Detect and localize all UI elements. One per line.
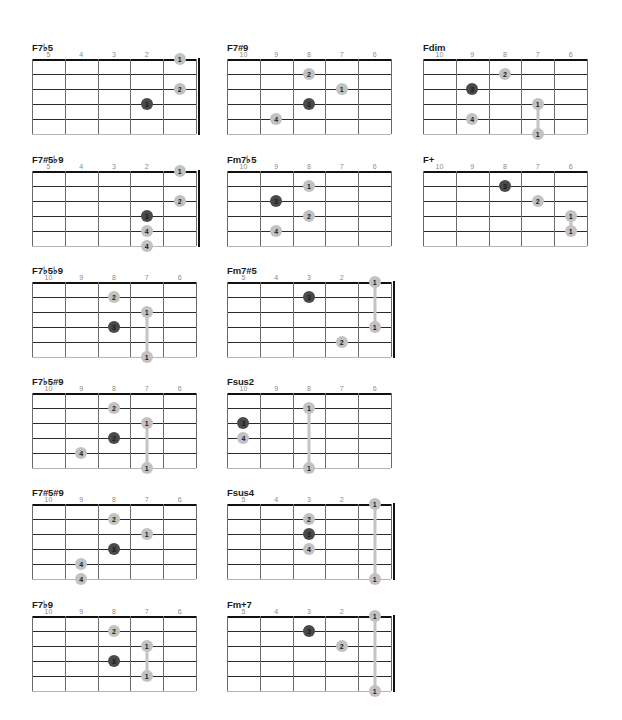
- fret-line: [32, 393, 33, 468]
- fret-number: 7: [340, 385, 344, 392]
- chord-diagram: F7♭5#910987621341: [32, 376, 212, 476]
- finger-dot: 2: [108, 513, 120, 525]
- fretboard-grid: 2131: [32, 616, 196, 691]
- finger-dot: 4: [75, 558, 87, 570]
- finger-dot: 4: [466, 113, 478, 125]
- string-line: [423, 104, 587, 105]
- string-line: [227, 282, 391, 284]
- fret-line: [32, 282, 33, 357]
- chord-diagram: F7♭55432123: [32, 42, 212, 142]
- string-line: [32, 134, 196, 135]
- fret-number: 9: [274, 163, 278, 170]
- string-line: [423, 171, 587, 173]
- fret-number: 4: [79, 51, 83, 58]
- root-finger-dot: 3: [466, 83, 478, 95]
- finger-dot: 1: [303, 402, 315, 414]
- fretboard-grid: 1321: [227, 616, 391, 691]
- finger-dot: 4: [270, 225, 282, 237]
- fret-line: [293, 616, 294, 691]
- finger-dot: 2: [336, 640, 348, 652]
- string-line: [32, 646, 196, 647]
- string-line: [227, 171, 391, 173]
- nut-bar: [393, 281, 396, 358]
- fret-line: [391, 171, 392, 246]
- string-line: [32, 74, 196, 75]
- barre-line: [308, 408, 311, 468]
- fretboard-grid: 3211: [423, 171, 587, 246]
- fret-line: [325, 59, 326, 134]
- fret-line: [98, 504, 99, 579]
- fret-line: [391, 59, 392, 134]
- string-line: [227, 646, 391, 647]
- fretboard-grid: 1341: [227, 393, 391, 468]
- finger-dot: 1: [141, 417, 153, 429]
- fret-number: 2: [145, 51, 149, 58]
- string-line: [227, 327, 391, 328]
- fret-line: [130, 171, 131, 246]
- fret-line: [196, 504, 197, 579]
- fret-line: [260, 59, 261, 134]
- root-finger-dot: 3: [237, 417, 249, 429]
- string-line: [423, 216, 587, 217]
- fret-line: [521, 171, 522, 246]
- fret-line: [358, 504, 359, 579]
- string-line: [32, 312, 196, 313]
- string-line: [32, 89, 196, 90]
- root-finger-dot: 3: [499, 180, 511, 192]
- string-line: [32, 216, 196, 217]
- fret-number: 8: [503, 51, 507, 58]
- string-line: [227, 201, 391, 202]
- root-finger-dot: 3: [108, 543, 120, 555]
- fret-number: 8: [307, 51, 311, 58]
- finger-dot: 2: [108, 402, 120, 414]
- barre-line: [373, 504, 376, 579]
- fret-number: 2: [340, 274, 344, 281]
- string-line: [227, 564, 391, 565]
- finger-dot: 1: [565, 225, 577, 237]
- fret-line: [32, 616, 33, 691]
- fretboard-grid: 2134: [227, 59, 391, 134]
- finger-dot: 2: [303, 210, 315, 222]
- chord-diagram: Fsus4543212341: [227, 487, 407, 587]
- chord-diagram: F7#5♭9543212344: [32, 154, 212, 254]
- fret-number: 8: [112, 496, 116, 503]
- fret-line: [489, 59, 490, 134]
- string-line: [32, 357, 196, 358]
- finger-dot: 2: [174, 83, 186, 95]
- fret-line: [325, 171, 326, 246]
- fret-number: 10: [239, 385, 247, 392]
- fret-number: 2: [145, 163, 149, 170]
- fret-line: [130, 504, 131, 579]
- string-line: [227, 246, 391, 247]
- fret-number: 3: [307, 274, 311, 281]
- string-line: [32, 691, 196, 692]
- fret-line: [130, 616, 131, 691]
- fretboard-grid: 12344: [32, 171, 196, 246]
- fret-line: [423, 59, 424, 134]
- string-line: [32, 616, 196, 618]
- chord-name: F+: [423, 154, 434, 165]
- string-line: [227, 504, 391, 506]
- nut-bar: [198, 58, 201, 135]
- fret-line: [65, 282, 66, 357]
- string-line: [423, 119, 587, 120]
- fret-line: [227, 282, 228, 357]
- nut-bar: [393, 503, 396, 580]
- fret-line: [65, 393, 66, 468]
- chord-diagram: F7♭91098762131: [32, 599, 212, 699]
- string-line: [227, 342, 391, 343]
- fretboard-grid: 1324: [227, 171, 391, 246]
- string-line: [32, 201, 196, 202]
- fretboard-grid: 123: [32, 59, 196, 134]
- chord-diagram: F7#5#910987621344: [32, 487, 212, 587]
- fret-line: [260, 504, 261, 579]
- string-line: [423, 59, 587, 61]
- fret-line: [196, 616, 197, 691]
- fret-number: 7: [536, 51, 540, 58]
- fret-line: [456, 59, 457, 134]
- fret-number: 4: [274, 496, 278, 503]
- fret-number: 3: [307, 496, 311, 503]
- fret-line: [196, 282, 197, 357]
- fretboard-grid: 21341: [32, 393, 196, 468]
- fret-line: [260, 616, 261, 691]
